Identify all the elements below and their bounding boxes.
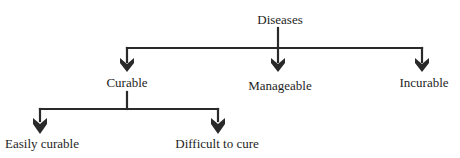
disease-classification-diagram: Diseases Curable Manageable Incurable Ea… — [0, 0, 460, 158]
node-easily-curable: Easily curable — [5, 137, 79, 151]
node-diseases: Diseases — [257, 13, 303, 27]
node-difficult-to-cure: Difficult to cure — [175, 137, 259, 151]
node-manageable: Manageable — [248, 79, 312, 93]
connector-lines — [0, 0, 460, 158]
node-curable: Curable — [106, 76, 147, 90]
node-incurable: Incurable — [399, 76, 448, 90]
